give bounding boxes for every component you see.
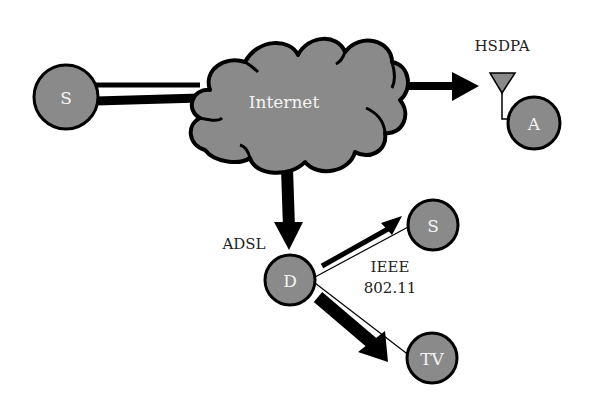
- internet-to-adsl-arrow: [274, 168, 303, 250]
- adsl-label: ADSL: [221, 235, 265, 253]
- dslam-node: D: [265, 255, 315, 305]
- station-node: S: [408, 200, 458, 250]
- internet-label: Internet: [249, 92, 320, 112]
- tv-node-label: TV: [420, 349, 444, 369]
- source-node-label: S: [60, 88, 72, 108]
- source-node: S: [34, 65, 98, 129]
- wifi-label-line2: 802.11: [364, 279, 417, 297]
- network-diagram: Internet S HSDPA A ADSL D S TV: [0, 0, 590, 405]
- wifi-label-line1: IEEE: [371, 258, 410, 276]
- mobile-node: A: [508, 97, 560, 149]
- station-node-label: S: [427, 216, 439, 236]
- tv-node: TV: [407, 333, 457, 383]
- dslam-node-label: D: [283, 271, 297, 291]
- mobile-node-label: A: [527, 114, 541, 134]
- source-to-internet-link: [94, 85, 200, 101]
- internet-cloud: Internet: [191, 39, 408, 173]
- hsdpa-label: HSDPA: [475, 37, 530, 55]
